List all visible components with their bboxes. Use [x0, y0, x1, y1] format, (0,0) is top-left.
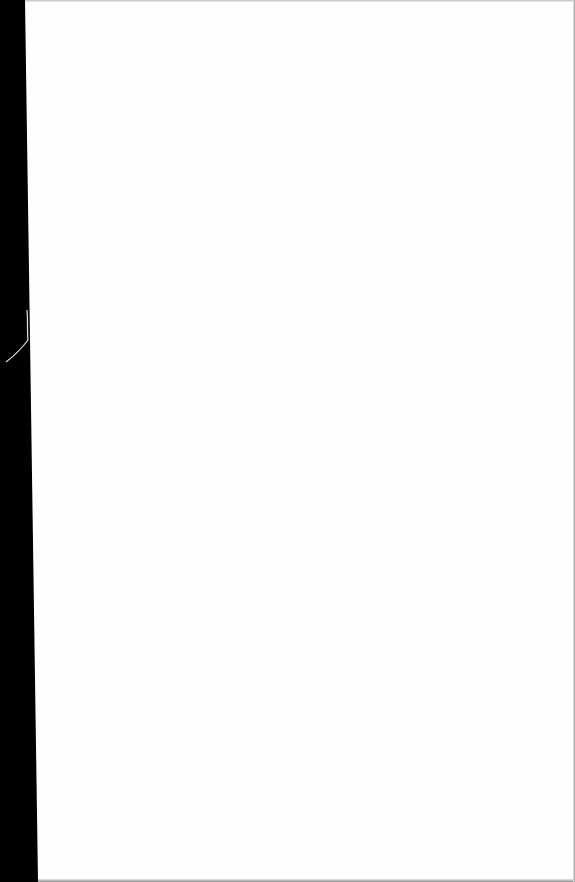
scan-fiber-artifact-icon [0, 300, 40, 380]
page-top-edge [25, 0, 575, 2]
blank-page [25, 0, 575, 882]
